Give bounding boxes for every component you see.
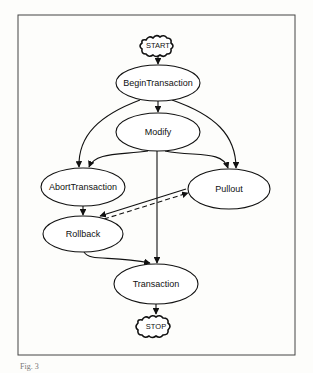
node-modify-label: Modify	[145, 127, 172, 137]
node-abort-transaction-label: AbortTransaction	[49, 182, 117, 192]
node-rollback: Rollback	[43, 216, 123, 252]
node-pullout-label: Pullout	[215, 184, 243, 194]
node-stop: STOP	[136, 316, 170, 338]
node-transaction: Transaction	[114, 264, 198, 304]
node-rollback-label: Rollback	[66, 229, 101, 239]
node-start-label: START	[146, 41, 170, 50]
node-stop-label: STOP	[146, 322, 166, 331]
edge-rollback-transaction	[84, 252, 150, 263]
node-start: START	[140, 36, 173, 57]
node-begin-transaction-label: BeginTransaction	[123, 78, 193, 88]
node-modify: Modify	[116, 113, 200, 151]
node-begin-transaction: BeginTransaction	[116, 65, 200, 101]
node-abort-transaction: AbortTransaction	[41, 168, 125, 206]
node-pullout: Pullout	[188, 169, 270, 209]
edge-modify-pullout	[165, 151, 228, 168]
node-transaction-label: Transaction	[133, 279, 180, 289]
flow-diagram: START BeginTransaction Modify AbortTrans…	[0, 0, 313, 373]
edge-modify-abort	[89, 151, 148, 167]
figure-caption: Fig. 3	[20, 362, 39, 371]
